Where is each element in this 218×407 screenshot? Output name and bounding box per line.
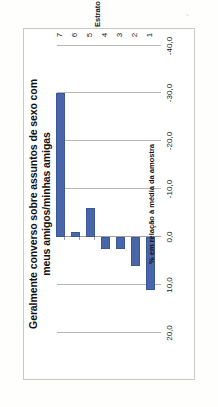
bar-category-5 xyxy=(86,208,95,237)
value-axis-title: % em relação à média da amostra xyxy=(147,28,156,380)
bar-category-6 xyxy=(71,232,80,237)
bar-category-2 xyxy=(131,237,140,266)
gridline-minus30 xyxy=(57,92,161,93)
bar-category-3 xyxy=(116,237,125,249)
value-tick-label-minus30: -30,0 xyxy=(165,76,174,110)
category-label-5: 5 xyxy=(85,28,94,42)
gridline-minus10 xyxy=(57,188,161,189)
category-axis-title: Estrato socioeconômico xyxy=(93,0,102,27)
chart-title-line-2: meus amigos/minhas amigas xyxy=(40,28,53,380)
scanned-page: Geralmente converso sobre assuntos de se… xyxy=(0,0,218,407)
gridline-minus20 xyxy=(57,140,161,141)
category-label-7: 7 xyxy=(55,28,64,42)
value-tick-label-minus20: -20,0 xyxy=(165,124,174,158)
chart-title: Geralmente converso sobre assuntos de se… xyxy=(27,28,53,380)
gridline-20 xyxy=(57,332,161,333)
value-tick-label-0: 0,0 xyxy=(165,220,174,254)
category-label-6: 6 xyxy=(70,28,79,42)
category-label-3: 3 xyxy=(115,28,124,42)
value-tick-label-10: 10,0 xyxy=(165,268,174,302)
value-tick-label-minus40: -40,0 xyxy=(165,29,174,63)
bar-category-7 xyxy=(56,93,65,237)
chart-figure: Geralmente converso sobre assuntos de se… xyxy=(23,28,195,380)
bar-category-4 xyxy=(101,237,110,249)
gridline-minus40 xyxy=(57,45,161,46)
category-label-4: 4 xyxy=(100,28,109,42)
rotated-figure-wrapper: Geralmente converso sobre assuntos de se… xyxy=(0,0,218,407)
category-label-2: 2 xyxy=(130,28,139,42)
value-tick-label-20: 20,0 xyxy=(165,316,174,350)
value-tick-label-minus10: -10,0 xyxy=(165,172,174,206)
chart-title-line-1: Geralmente converso sobre assuntos de se… xyxy=(27,28,40,380)
plot-area: 7 6 5 4 3 2 1 Estrato socioeconômico 20,… xyxy=(57,45,161,333)
